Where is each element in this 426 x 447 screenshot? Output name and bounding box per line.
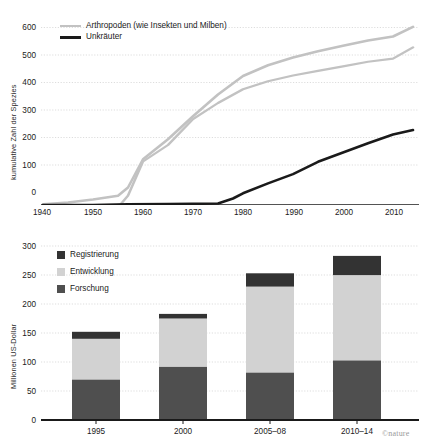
line-xtick-2010: 2010: [379, 209, 409, 217]
bar-group-1995: [72, 332, 120, 420]
line-ytick-0: 0: [2, 189, 36, 197]
bar-2005-forschung: [246, 372, 294, 420]
bar-1995-forschung: [72, 379, 120, 420]
bar-group-2010-14: [333, 256, 381, 420]
bar-2005-entwicklung: [246, 287, 294, 373]
bar-ytick-200: 200: [2, 301, 36, 309]
legend-swatch-forschung: [57, 285, 65, 293]
line-chart-plot: [41, 20, 421, 205]
line-chart-panel: kumulative Zahl der Spezies 600 500 400 …: [0, 0, 426, 224]
bar-ytick-300: 300: [2, 243, 36, 251]
line-xtick-1990: 1990: [279, 209, 309, 217]
bar-2010-forschung: [333, 360, 381, 420]
legend-item-unkraeuter: Unkräuter: [60, 33, 122, 41]
bar-group-2000: [159, 314, 207, 420]
line-ytick-300: 300: [2, 107, 36, 115]
bar-1995-entwicklung: [72, 339, 120, 380]
series-unkraeuter: [43, 130, 413, 205]
legend-label-entwicklung: Entwicklung: [70, 268, 114, 276]
legend-label-arthropoden: Arthropoden (wie Insekten und Milben): [86, 22, 227, 30]
bar-ytick-100: 100: [2, 359, 36, 367]
nature-credit: ©nature: [382, 429, 409, 438]
line-xtick-1970: 1970: [178, 209, 208, 217]
line-ytick-400: 400: [2, 79, 36, 87]
legend-item-entwicklung: Entwicklung: [57, 268, 114, 276]
line-xtick-1980: 1980: [228, 209, 258, 217]
bar-ytick-250: 250: [2, 272, 36, 280]
bar-ytick-50: 50: [2, 388, 36, 396]
bar-ytick-150: 150: [2, 330, 36, 338]
bar-2000-registrierung: [159, 314, 207, 319]
bar-xtick-2010-14: 2010–14: [337, 428, 377, 436]
series-arthropoden: [43, 27, 413, 205]
legend-line-unkraeuter: [60, 36, 81, 39]
bar-2010-entwicklung: [333, 275, 381, 360]
line-ytick-100: 100: [2, 162, 36, 170]
line-ytick-600: 600: [2, 24, 36, 32]
bar-chart-panel: Millionen US-Dollar 300 250 200 150 100 …: [0, 224, 426, 447]
bar-ytick-0: 0: [2, 417, 36, 425]
legend-label-forschung: Forschung: [70, 285, 109, 293]
bar-2000-forschung: [159, 367, 207, 420]
legend-item-registrierung: Registrierung: [57, 251, 119, 259]
legend-line-arthropoden: [60, 25, 81, 28]
bar-1995-registrierung: [72, 332, 120, 339]
bar-2000-entwicklung: [159, 319, 207, 367]
legend-label-unkraeuter: Unkräuter: [86, 33, 122, 41]
line-xtick-2000: 2000: [329, 209, 359, 217]
line-xtick-1960: 1960: [128, 209, 158, 217]
bar-xtick-2000: 2000: [163, 428, 203, 436]
bar-xtick-1995: 1995: [76, 428, 116, 436]
line-xtick-1940: 1940: [27, 209, 57, 217]
legend-swatch-entwicklung: [57, 268, 65, 276]
line-xtick-1950: 1950: [78, 209, 108, 217]
bar-xtick-2005-08: 2005–08: [250, 428, 290, 436]
bar-2005-registrierung: [246, 273, 294, 286]
legend-item-forschung: Forschung: [57, 285, 109, 293]
bar-2010-registrierung: [333, 256, 381, 275]
line-ytick-200: 200: [2, 134, 36, 142]
legend-item-arthropoden: Arthropoden (wie Insekten und Milben): [60, 22, 227, 30]
legend-swatch-registrierung: [57, 251, 65, 259]
line-ytick-500: 500: [2, 52, 36, 60]
bar-group-2005-08: [246, 273, 294, 420]
nature-figure: kumulative Zahl der Spezies 600 500 400 …: [0, 0, 426, 447]
series-arthropoden-line: [43, 47, 413, 205]
legend-label-registrierung: Registrierung: [70, 251, 119, 259]
